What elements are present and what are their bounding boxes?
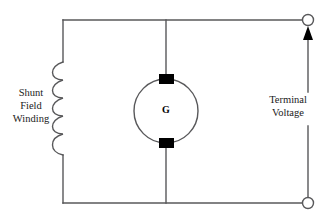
shunt-generator-circuit-diagram: Shunt Field Winding Terminal Voltage G	[0, 0, 334, 219]
terminal-voltage-label-line2: Voltage	[258, 106, 318, 119]
shunt-field-winding-label-line3: Winding	[4, 112, 58, 125]
terminal-voltage-label-line1: Terminal	[258, 93, 318, 106]
terminal-voltage-label: Terminal Voltage	[258, 93, 318, 119]
generator-brush-top	[159, 74, 174, 84]
terminal-top-node	[303, 15, 314, 26]
generator-label: G	[146, 104, 186, 115]
shunt-field-winding-label-line2: Field	[4, 99, 58, 112]
shunt-field-winding-label-line1: Shunt	[4, 86, 58, 99]
voltage-arrowhead-icon	[303, 26, 313, 40]
shunt-field-winding-label: Shunt Field Winding	[4, 86, 58, 125]
terminal-bottom-node	[303, 198, 314, 209]
generator-brush-bottom	[159, 138, 174, 148]
